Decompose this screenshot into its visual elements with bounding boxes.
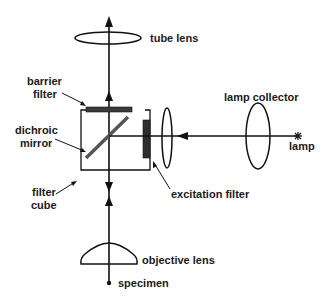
tube-lens-label: tube lens [150, 32, 198, 44]
barrier-filter-pointer [62, 93, 84, 104]
arrow-down-excitation-icon [105, 182, 113, 192]
arrow-up-emission-icon [105, 196, 113, 206]
lamp-icon [294, 132, 302, 140]
filter-cube-pointer-head-icon [71, 181, 77, 186]
specimen-dot [107, 281, 111, 285]
excitation-filter-label: excitation filter [171, 188, 250, 200]
tube-lens [75, 32, 141, 44]
condenser-lens [162, 108, 172, 168]
objective-lens-label: objective lens [142, 254, 215, 266]
fluorescence-microscope-diagram: tube lens lamp collector lamp barrier fi… [0, 0, 323, 299]
dichroic-mirror-label-line2: mirror [20, 137, 53, 149]
lamp-label: lamp [289, 140, 315, 152]
specimen-label: specimen [118, 277, 169, 289]
dichroic-mirror-label-line1: dichroic [15, 124, 58, 136]
filter-cube-label-line1: filter [32, 186, 57, 198]
arrow-up-top-icon [105, 16, 113, 27]
barrier-filter-label-line1: barrier [27, 75, 63, 87]
arrow-left-icon [177, 132, 188, 140]
dichroic-mirror [86, 117, 128, 158]
barrier-filter-label-line2: filter [33, 88, 58, 100]
filter-cube-label-line2: cube [31, 199, 57, 211]
excitation-filter [143, 120, 150, 158]
barrier-filter [86, 107, 132, 112]
dichroic-mirror-pointer [55, 139, 84, 151]
filter-cube [81, 110, 150, 170]
lamp-collector-label: lamp collector [224, 91, 299, 103]
barrier-filter-pointer-head-icon [80, 101, 86, 106]
arrow-up-mid-icon [105, 91, 113, 101]
